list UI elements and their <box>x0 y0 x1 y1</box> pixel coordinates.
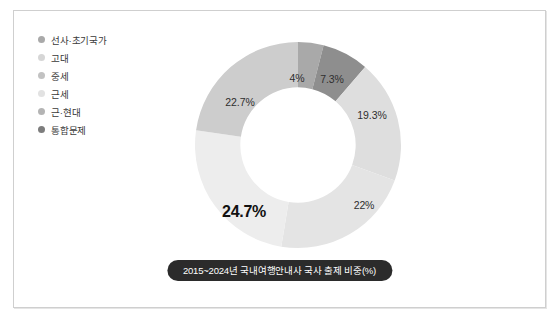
legend-item-3[interactable]: 근세 <box>38 85 158 102</box>
legend-color-swatch <box>38 108 45 115</box>
legend-item-2[interactable]: 중세 <box>38 67 158 84</box>
donut-slice[interactable] <box>196 42 298 137</box>
legend-item-label: 중세 <box>51 69 69 83</box>
donut-slice[interactable] <box>195 130 289 246</box>
chart-caption: 2015~2024년 국내여행안내사 국사 출제 비중(%) <box>167 260 392 281</box>
donut-slice-label: 22.7% <box>225 96 254 108</box>
donut-chart: 4%7.3%19.3%22%24.7%22.7% <box>192 39 404 251</box>
legend-item-5[interactable]: 통합문제 <box>38 121 158 138</box>
legend-color-swatch <box>38 126 45 133</box>
chart-legend: 선사·초기국가 고대 중세 근세 근·현대 통합문제 <box>38 31 158 139</box>
legend-item-label: 선사·초기국가 <box>51 33 107 47</box>
legend-item-label: 고대 <box>51 51 69 65</box>
legend-color-swatch <box>38 36 45 43</box>
donut-slice-label: 22% <box>354 199 375 211</box>
legend-item-label: 통합문제 <box>51 123 86 137</box>
donut-slice-label: 7.3% <box>320 73 344 85</box>
donut-slice[interactable] <box>281 165 394 248</box>
legend-item-label: 근·현대 <box>51 105 80 119</box>
legend-color-swatch <box>38 72 45 79</box>
legend-item-0[interactable]: 선사·초기국가 <box>38 31 158 48</box>
legend-item-4[interactable]: 근·현대 <box>38 103 158 120</box>
legend-item-label: 근세 <box>51 87 69 101</box>
legend-color-swatch <box>38 90 45 97</box>
legend-color-swatch <box>38 54 45 61</box>
legend-item-1[interactable]: 고대 <box>38 49 158 66</box>
donut-slice-label: 19.3% <box>357 109 386 121</box>
donut-slice-label: 24.7% <box>222 203 266 221</box>
chart-card: 선사·초기국가 고대 중세 근세 근·현대 통합문제 4%7.3%19.3%22… <box>13 10 546 308</box>
donut-slice-label: 4% <box>290 72 305 84</box>
